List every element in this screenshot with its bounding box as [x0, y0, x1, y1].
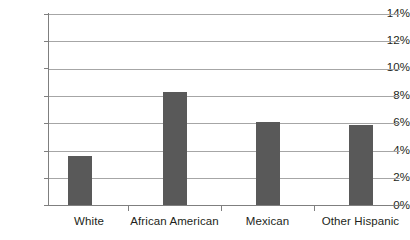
x-tick-mark-1 [128, 206, 129, 211]
bar-mexican [256, 122, 280, 205]
x-tick-label-other-hispanic: Other Hispanic [314, 216, 407, 228]
x-tick-label-white: White [50, 216, 128, 228]
bar-african-american [163, 92, 187, 205]
plot-area [49, 14, 400, 205]
gridline-6 [49, 123, 400, 124]
gridline-10 [49, 69, 400, 70]
gridline-2 [49, 178, 400, 179]
gridline-8 [49, 96, 400, 97]
x-tick-mark-3 [314, 206, 315, 211]
bar-chart: 14% 12% 10% 8% 6% 4% 2% 0% White African… [0, 0, 410, 240]
gridline-14 [49, 14, 400, 15]
x-tick-label-mexican: Mexican [221, 216, 314, 228]
gridline-0 [49, 205, 400, 206]
gridline-12 [49, 41, 400, 42]
gridline-4 [49, 151, 400, 152]
x-tick-mark-2 [221, 206, 222, 211]
x-tick-label-african-american: African American [128, 216, 221, 228]
bar-other-hispanic [349, 125, 373, 206]
bar-white [68, 156, 92, 205]
